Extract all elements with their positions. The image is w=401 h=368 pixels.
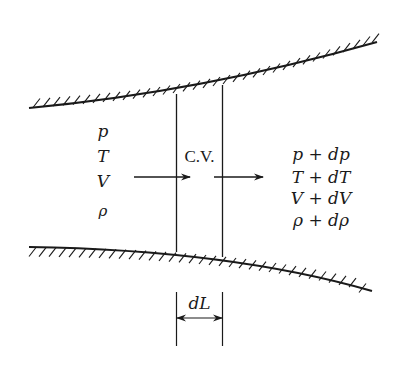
outlet-density: ρ + dρ <box>292 210 349 230</box>
outlet-temperature: T + dT <box>292 167 352 187</box>
inlet-velocity: V <box>97 171 111 191</box>
length-dimension: dL <box>177 292 223 346</box>
inlet-properties: p T V ρ <box>97 121 111 220</box>
outlet-velocity: V + dV <box>291 188 353 208</box>
control-volume-label: C.V. <box>185 147 215 166</box>
lower-wall-hatching <box>29 248 366 293</box>
inlet-density: ρ <box>98 202 108 220</box>
outlet-pressure: p + dp <box>292 144 350 164</box>
length-label: dL <box>188 293 210 313</box>
inlet-pressure: p <box>98 121 109 141</box>
upper-wall-hatching <box>33 34 379 108</box>
upper-wall <box>29 34 379 108</box>
diagram-svg: C.V. p T V ρ p + dp T + dT V + dV ρ + dρ… <box>0 0 401 368</box>
outlet-properties: p + dp T + dT V + dV ρ + dρ <box>291 144 353 230</box>
lower-wall <box>29 247 372 293</box>
control-volume <box>177 85 223 257</box>
inlet-temperature: T <box>97 146 110 166</box>
diagram-canvas: C.V. p T V ρ p + dp T + dT V + dV ρ + dρ… <box>0 0 401 368</box>
